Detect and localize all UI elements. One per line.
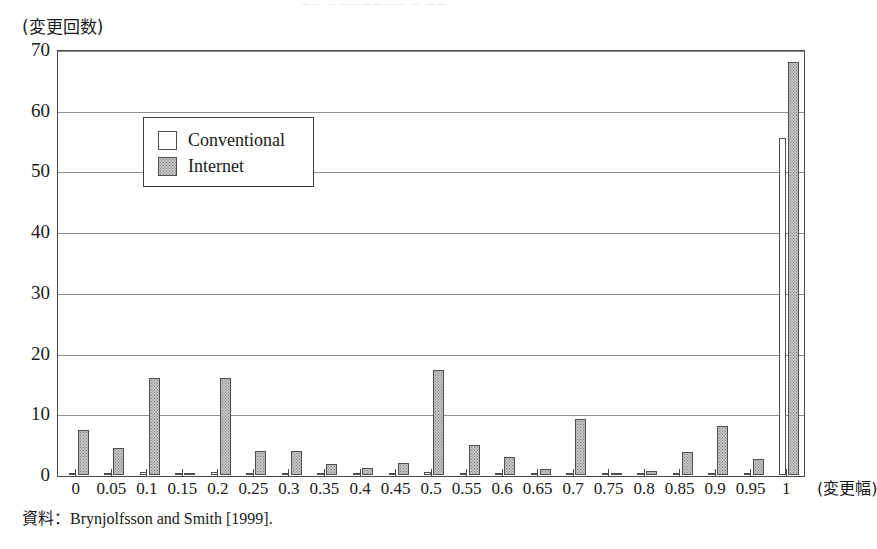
y-tick-label-10: 10 [6,404,50,423]
x-tick-label-1: 1 [782,479,791,499]
x-tick-label-0.6: 0.6 [491,479,512,499]
x-tick-label-0.65: 0.65 [523,479,553,499]
x-tick-label-0.45: 0.45 [381,479,411,499]
x-tick-label-0.4: 0.4 [349,479,370,499]
x-tick-mark-0.5 [431,469,432,476]
x-tick-mark-0.55 [466,469,467,476]
x-tick-labels: (変更幅) 00.050.10.150.20.250.30.350.40.450… [57,479,805,501]
y-tick-label-70: 70 [6,40,50,59]
x-tick-label-0.75: 0.75 [594,479,624,499]
legend-item-internet: Internet [158,153,244,179]
x-tick-mark-0.6 [502,469,503,476]
legend-item-conventional: Conventional [158,127,285,153]
x-tick-label-0.15: 0.15 [167,479,197,499]
x-tick-label-0.05: 0.05 [96,479,126,499]
x-tick-mark-0.75 [608,469,609,476]
x-tick-marks [58,51,804,476]
x-tick-label-0.1: 0.1 [136,479,157,499]
legend-label-internet: Internet [188,156,244,176]
source-note-prefix: 資料： [22,509,70,528]
x-tick-mark-0.85 [679,469,680,476]
x-tick-mark-0.7 [573,469,574,476]
legend-swatch-internet [158,157,177,176]
source-note-text: Brynjolfsson and Smith [1999]. [70,510,273,527]
x-tick-mark-0.25 [253,469,254,476]
x-tick-mark-1 [786,469,787,476]
x-tick-mark-0.4 [360,469,361,476]
plot-area: Conventional Internet [57,50,805,477]
x-tick-mark-0.45 [395,469,396,476]
legend-swatch-conventional [158,131,177,150]
x-tick-label-0.7: 0.7 [562,479,583,499]
source-note: 資料：Brynjolfsson and Smith [1999]. [22,509,273,529]
y-tick-label-50: 50 [6,161,50,180]
x-tick-mark-0.9 [715,469,716,476]
chart-legend: Conventional Internet [143,117,314,187]
y-tick-labels: 010203040506070 [0,50,50,477]
x-tick-label-0.85: 0.85 [665,479,695,499]
x-tick-mark-0 [75,469,76,476]
x-tick-label-0.5: 0.5 [420,479,441,499]
cropped-header-text: －－ －－－－－－－ － －－ [300,0,730,7]
x-tick-label-0.95: 0.95 [736,479,766,499]
x-tick-mark-0.3 [288,469,289,476]
x-tick-mark-0.65 [537,469,538,476]
x-tick-label-0: 0 [72,479,81,499]
x-tick-label-0.55: 0.55 [452,479,482,499]
x-tick-label-0.25: 0.25 [239,479,269,499]
y-tick-label-0: 0 [6,465,50,484]
y-tick-label-40: 40 [6,222,50,241]
x-tick-label-0.3: 0.3 [278,479,299,499]
legend-label-conventional: Conventional [188,130,285,150]
x-tick-label-0.35: 0.35 [310,479,340,499]
x-tick-mark-0.35 [324,469,325,476]
x-tick-mark-0.1 [146,469,147,476]
x-tick-label-0.9: 0.9 [705,479,726,499]
x-tick-mark-0.05 [111,469,112,476]
x-tick-mark-0.95 [750,469,751,476]
y-tick-label-60: 60 [6,101,50,120]
x-tick-label-0.8: 0.8 [633,479,654,499]
x-axis-unit-label: (変更幅) [817,479,877,499]
x-tick-mark-0.15 [182,469,183,476]
x-tick-mark-0.2 [217,469,218,476]
x-tick-mark-0.8 [644,469,645,476]
x-tick-label-0.2: 0.2 [207,479,228,499]
y-axis-title: (変更回数) [22,17,103,37]
y-tick-label-30: 30 [6,283,50,302]
y-tick-label-20: 20 [6,344,50,363]
